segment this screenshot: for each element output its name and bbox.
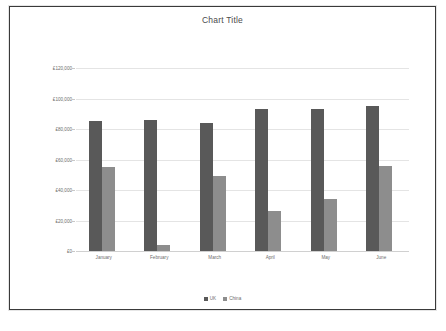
y-axis-tick-mark (72, 251, 75, 252)
bar-group (187, 68, 243, 251)
x-axis-tick-label: April (243, 255, 299, 260)
y-axis-tick-mark (72, 190, 75, 191)
bar-uk-june[interactable] (366, 106, 379, 251)
plot-area (76, 68, 409, 251)
y-axis-tick-mark (72, 68, 75, 69)
y-axis-tick-label: £20,000 (16, 218, 72, 223)
bar-uk-march[interactable] (200, 123, 213, 251)
bar-china-march[interactable] (213, 176, 226, 251)
x-axis-line (76, 251, 409, 252)
legend-swatch-icon (223, 297, 227, 301)
legend-item-china[interactable]: China (223, 296, 241, 301)
bar-china-january[interactable] (102, 167, 115, 251)
x-axis-tick-label: March (187, 255, 243, 260)
bar-uk-may[interactable] (311, 109, 324, 251)
legend-label: China (229, 296, 241, 301)
legend-swatch-icon (204, 297, 208, 301)
x-axis-tick-label: May (298, 255, 354, 260)
chart-legend[interactable]: UKChina (10, 296, 435, 301)
bar-group (298, 68, 354, 251)
bar-china-april[interactable] (268, 211, 281, 251)
x-axis-tick-label: June (354, 255, 410, 260)
y-axis: £0£20,000£40,000£60,000£80,000£100,000£1… (10, 68, 72, 251)
legend-label: UK (210, 296, 216, 301)
x-axis-tick-label: February (132, 255, 188, 260)
y-axis-tick-label: £0 (16, 249, 72, 254)
bar-group (132, 68, 188, 251)
bar-uk-april[interactable] (255, 109, 268, 251)
y-axis-tick-label: £60,000 (16, 157, 72, 162)
bar-china-may[interactable] (324, 199, 337, 251)
x-axis-tick-label: January (76, 255, 132, 260)
y-axis-tick-label: £100,000 (16, 96, 72, 101)
chart-frame: Chart Title £0£20,000£40,000£60,000£80,0… (9, 6, 436, 310)
y-axis-tick-label: £40,000 (16, 188, 72, 193)
y-axis-tick-mark (72, 129, 75, 130)
y-axis-tick-mark (72, 160, 75, 161)
bar-group (76, 68, 132, 251)
bar-china-february[interactable] (157, 245, 170, 251)
y-axis-tick-label: £80,000 (16, 127, 72, 132)
bar-uk-january[interactable] (89, 121, 102, 251)
y-axis-tick-mark (72, 221, 75, 222)
y-axis-tick-label: £120,000 (16, 66, 72, 71)
chart-page: Chart Title £0£20,000£40,000£60,000£80,0… (0, 0, 446, 331)
y-axis-tick-mark (72, 99, 75, 100)
bar-group (243, 68, 299, 251)
bar-uk-february[interactable] (144, 120, 157, 251)
chart-plot-container[interactable]: Chart Title £0£20,000£40,000£60,000£80,0… (10, 7, 435, 309)
bar-group (354, 68, 410, 251)
bar-china-june[interactable] (379, 166, 392, 251)
legend-item-uk[interactable]: UK (204, 296, 216, 301)
chart-title: Chart Title (10, 15, 435, 25)
x-axis: JanuaryFebruaryMarchAprilMayJune (76, 255, 409, 267)
